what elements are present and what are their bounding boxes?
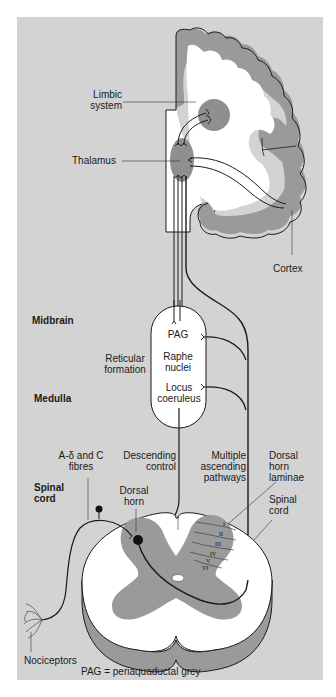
lamina-v: V: [206, 558, 210, 564]
lamina-i: I: [223, 521, 225, 527]
label-thalamus: Thalamus: [72, 155, 116, 166]
region-label-midbrain: Midbrain: [32, 315, 74, 326]
lamina-iii: III: [215, 541, 221, 547]
label-multiple-ascending-pathways: Multiple ascending pathways: [198, 450, 246, 483]
region-label-medulla: Medulla: [34, 393, 71, 404]
label-reticular-formation: Reticular formation: [100, 353, 150, 375]
label-descending-control: Descending control: [118, 450, 176, 472]
region-label-spinal-cord: Spinal cord: [34, 482, 74, 504]
central-canal: [172, 575, 184, 582]
label-cortex: Cortex: [273, 263, 302, 274]
label-dorsal-horn-laminae: Dorsal horn laminae: [269, 450, 313, 483]
spinal-cord-leader: [254, 520, 272, 540]
spinal-cord-section: [24, 478, 276, 672]
label-locus-coeruleus: Locus coeruleus: [152, 382, 206, 404]
label-dorsal-horn: Dorsal horn: [114, 485, 154, 507]
label-pag: PAG: [157, 329, 199, 340]
lamina-vi: VI: [202, 565, 208, 571]
lamina-iv: IV: [210, 551, 216, 557]
label-a-delta-c-fibres: A-δ and C fibres: [58, 450, 104, 472]
label-nociceptors: Nociceptors: [24, 655, 77, 666]
pain-pathway-diagram: [0, 0, 336, 697]
label-spinal-cord: Spinal cord: [269, 494, 303, 516]
label-limbic-system: Limbic system: [78, 89, 122, 111]
lamina-ii: II: [219, 531, 223, 537]
limbic-system-node: [198, 99, 230, 131]
label-raphe-nuclei: Raphe nuclei: [157, 351, 199, 373]
nociceptor-endings: [24, 604, 42, 638]
brain-hemisphere: [122, 28, 306, 255]
dorsal-root-ganglion: [96, 506, 103, 513]
footnote: PAG = periaquaductal grey: [81, 666, 201, 677]
